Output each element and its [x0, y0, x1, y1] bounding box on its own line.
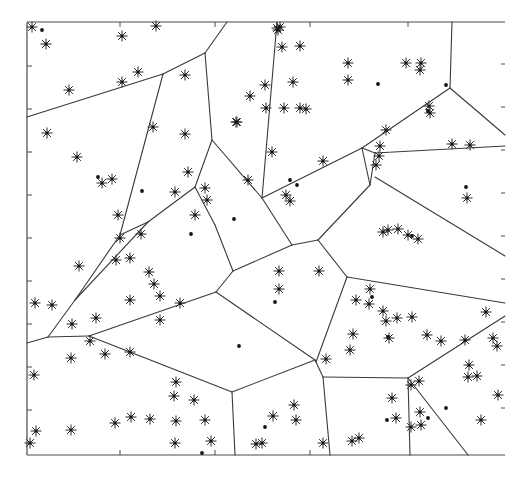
star-marker-icon: [401, 58, 412, 69]
dot-marker-icon: [426, 109, 430, 113]
star-marker-icon: [133, 67, 144, 78]
star-marker-icon: [261, 103, 272, 114]
voronoi-edge: [75, 235, 120, 300]
dot-marker-icon: [273, 300, 277, 304]
voronoi-edge: [362, 88, 450, 148]
voronoi-edge: [408, 378, 468, 455]
voronoi-edge: [205, 22, 227, 53]
star-marker-icon: [318, 438, 329, 449]
voronoi-edge: [450, 22, 452, 88]
star-marker-icon: [274, 284, 285, 295]
star-marker-icon: [291, 415, 302, 426]
star-marker-icon: [151, 21, 162, 32]
star-marker-icon: [125, 347, 136, 358]
star-marker-icon: [115, 233, 126, 244]
star-marker-icon: [170, 187, 181, 198]
star-marker-icon: [285, 196, 296, 207]
voronoi-edge: [375, 146, 505, 153]
star-marker-icon: [29, 370, 40, 381]
dot-marker-icon: [426, 416, 430, 420]
star-marker-icon: [171, 416, 182, 427]
dot-marker-icon: [200, 451, 204, 455]
star-marker-icon: [275, 22, 286, 33]
star-marker-icon: [447, 139, 458, 150]
star-marker-icon: [414, 376, 425, 387]
star-marker-icon: [149, 279, 160, 290]
dot-marker-icon: [237, 344, 241, 348]
star-marker-icon: [175, 298, 186, 309]
dot-marker-icon: [464, 185, 468, 189]
star-marker-icon: [169, 391, 180, 402]
star-marker-icon: [117, 31, 128, 42]
star-marker-icon: [171, 377, 182, 388]
voronoi-plot: [0, 0, 530, 478]
star-marker-icon: [476, 415, 487, 426]
star-marker-icon: [268, 411, 279, 422]
voronoi-edge: [215, 225, 233, 271]
voronoi-edge: [163, 53, 205, 74]
voronoi-edge: [205, 53, 212, 140]
star-marker-icon: [41, 39, 52, 50]
star-marker-icon: [267, 147, 278, 158]
star-marker-icon: [113, 210, 124, 221]
star-marker-icon: [383, 225, 394, 236]
star-marker-icon: [301, 104, 312, 115]
star-marker-icon: [110, 418, 121, 429]
voronoi-edge: [120, 74, 163, 235]
voronoi-edge: [216, 271, 233, 292]
star-marker-icon: [393, 224, 404, 235]
star-marker-icon: [378, 306, 389, 317]
star-marker-icon: [202, 195, 213, 206]
voronoi-edge: [232, 392, 235, 455]
star-marker-icon: [200, 415, 211, 426]
star-marker-icon: [243, 175, 254, 186]
star-marker-icon: [472, 371, 483, 382]
dot-marker-icon: [444, 83, 448, 87]
dot-marker-icon: [444, 406, 448, 410]
voronoi-edge: [89, 292, 216, 336]
star-marker-icon: [407, 312, 418, 323]
axis-ticks: [27, 22, 505, 455]
star-marker-icon: [289, 400, 300, 411]
voronoi-edge: [362, 148, 375, 153]
star-marker-icon: [348, 329, 359, 340]
star-marker-icon: [273, 25, 284, 36]
dot-marker-icon: [370, 295, 374, 299]
star-marker-icon: [190, 210, 201, 221]
star-marker-icon: [318, 156, 329, 167]
voronoi-edge: [450, 88, 505, 135]
voronoi-edge: [408, 316, 505, 378]
star-marker-icon: [180, 129, 191, 140]
star-marker-icon: [492, 341, 503, 352]
star-marker-icon: [415, 407, 426, 418]
star-marker-icon: [64, 85, 75, 96]
dot-marker-icon: [295, 183, 299, 187]
dot-marker-icon: [386, 335, 390, 339]
dot-marker-icon: [40, 28, 44, 32]
voronoi-edge: [262, 198, 292, 245]
star-markers: [25, 21, 504, 450]
voronoi-edge: [292, 240, 318, 245]
star-marker-icon: [189, 395, 200, 406]
star-marker-icon: [31, 426, 42, 437]
star-marker-icon: [144, 267, 155, 278]
star-marker-icon: [481, 307, 492, 318]
star-marker-icon: [295, 41, 306, 52]
star-marker-icon: [180, 70, 191, 81]
star-marker-icon: [25, 438, 36, 449]
star-marker-icon: [493, 390, 504, 401]
star-marker-icon: [145, 414, 156, 425]
star-marker-icon: [245, 91, 256, 102]
star-marker-icon: [381, 316, 392, 327]
voronoi-edge: [375, 177, 505, 256]
star-marker-icon: [200, 183, 211, 194]
star-marker-icon: [85, 336, 96, 347]
star-marker-icon: [100, 349, 111, 360]
star-marker-icon: [364, 299, 375, 310]
voronoi-edge: [27, 74, 163, 117]
star-marker-icon: [155, 291, 166, 302]
voronoi-edge: [212, 140, 262, 198]
star-marker-icon: [170, 438, 181, 449]
star-marker-icon: [30, 298, 41, 309]
star-marker-icon: [387, 393, 398, 404]
